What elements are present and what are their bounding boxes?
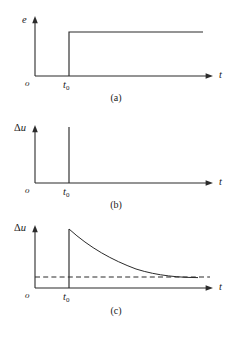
panel-c-origin-label: o bbox=[25, 291, 30, 300]
panel-c-y-axis-label: Δu bbox=[14, 223, 26, 234]
panel-b-y-axis-arrow-icon bbox=[32, 125, 38, 132]
panel-a-caption: (a) bbox=[96, 93, 136, 103]
panel-c: Δu o t0 t (c) bbox=[0, 218, 234, 341]
panel-c-x-axis-arrow-icon bbox=[206, 285, 213, 291]
panel-a-y-axis-arrow-icon bbox=[32, 16, 38, 23]
panel-a-x-axis-label: t bbox=[219, 70, 222, 81]
panel-a-step-waveform bbox=[69, 32, 203, 76]
panel-b-y-axis-label: Δu bbox=[14, 123, 26, 134]
panel-c-decay-curve bbox=[69, 229, 198, 278]
panel-a-tick-label-t0: t0 bbox=[63, 80, 69, 92]
panel-c-tick-label-t0: t0 bbox=[63, 292, 69, 304]
panel-a-origin-label: o bbox=[25, 79, 30, 88]
panel-c-caption: (c) bbox=[96, 306, 136, 316]
panel-a-y-axis-label: e bbox=[22, 15, 27, 26]
panel-b: Δu o t0 t (b) bbox=[0, 110, 234, 216]
panel-b-tick-label-t0: t0 bbox=[63, 187, 69, 199]
waveform-figure: e o t0 t (a) Δu o t0 t (b) bbox=[0, 0, 234, 341]
panel-c-plot bbox=[0, 218, 234, 341]
panel-b-x-axis-label: t bbox=[219, 177, 222, 188]
panel-c-x-axis-label: t bbox=[219, 282, 222, 293]
panel-a: e o t0 t (a) bbox=[0, 0, 234, 108]
panel-a-x-axis-arrow-icon bbox=[206, 73, 213, 79]
panel-b-caption: (b) bbox=[96, 200, 136, 210]
panel-b-origin-label: o bbox=[25, 186, 30, 195]
panel-c-y-axis-arrow-icon bbox=[32, 225, 38, 232]
panel-b-x-axis-arrow-icon bbox=[206, 180, 213, 186]
